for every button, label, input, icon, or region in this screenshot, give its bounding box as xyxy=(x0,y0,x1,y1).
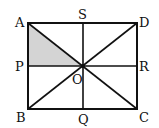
label-P: P xyxy=(15,59,24,74)
geometry-diagram: A S D P R O B Q C xyxy=(0,0,159,128)
label-Q: Q xyxy=(78,112,89,127)
label-O: O xyxy=(72,72,83,87)
label-R: R xyxy=(139,59,150,74)
label-B: B xyxy=(16,110,26,125)
label-C: C xyxy=(139,110,149,125)
label-S: S xyxy=(78,7,87,22)
point-O xyxy=(81,64,85,68)
label-A: A xyxy=(14,15,25,30)
label-D: D xyxy=(139,15,149,30)
